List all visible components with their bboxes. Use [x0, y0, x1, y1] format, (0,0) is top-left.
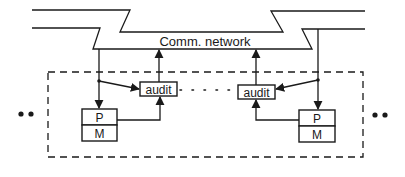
right-processor-label: P — [313, 112, 321, 126]
right-processor-to-audit-arrow — [256, 100, 299, 120]
comm-network: Comm. network — [32, 10, 365, 49]
left-continuation-dots — [18, 111, 33, 116]
right-continuation-dots — [372, 112, 387, 117]
left-audit-label: audit — [145, 83, 172, 97]
audit-architecture-diagram: Comm. network audit P M audit — [0, 0, 405, 177]
left-junction-to-audit-arrow — [99, 81, 139, 89]
right-memory-label: M — [312, 128, 322, 142]
network-label: Comm. network — [159, 34, 251, 49]
left-node: audit P M — [82, 49, 177, 141]
right-node: audit P M — [238, 29, 335, 142]
left-memory-label: M — [95, 127, 105, 141]
left-processor-label: P — [95, 111, 103, 125]
left-processor-to-audit-arrow — [117, 97, 160, 120]
right-junction-to-audit-arrow — [276, 80, 318, 89]
right-audit-label: audit — [243, 86, 270, 100]
